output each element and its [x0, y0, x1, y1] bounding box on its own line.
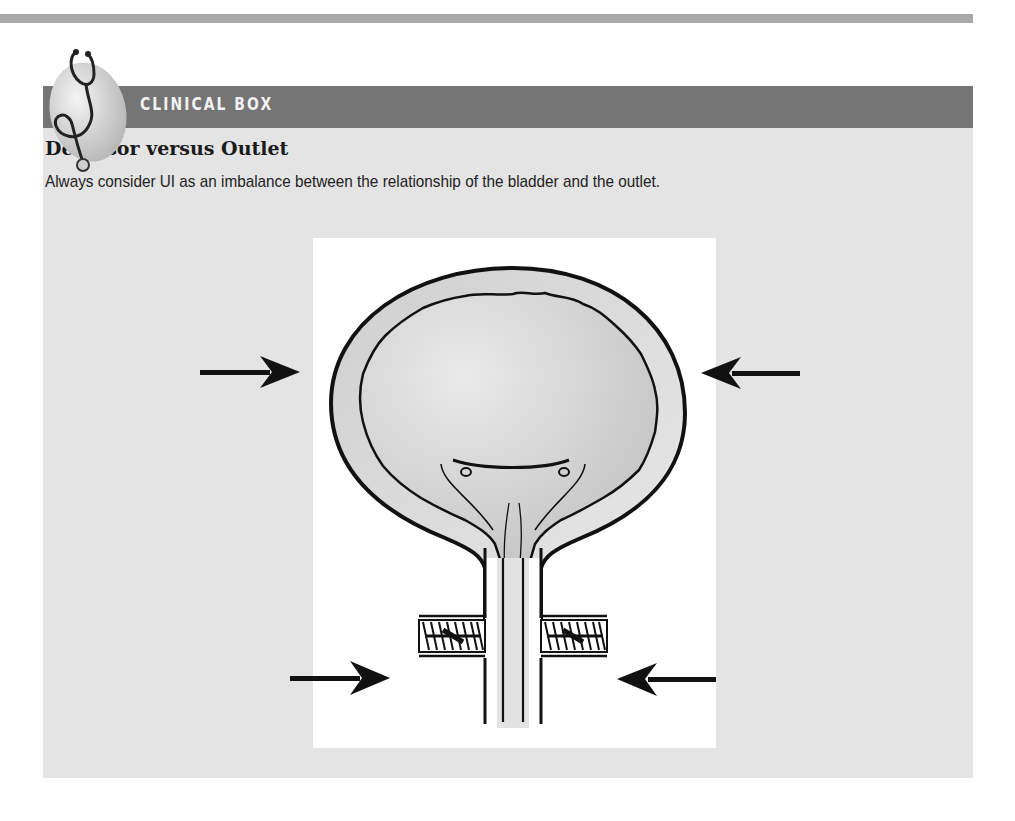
bladder-diagram: [313, 238, 716, 748]
clinical-box-label: CLINICAL BOX: [140, 94, 273, 114]
sphincter-right: [541, 616, 607, 656]
box-description: Always consider UI as an imbalance betwe…: [45, 172, 660, 192]
bladder-figure-panel: [313, 238, 716, 748]
stethoscope-icon: [28, 44, 148, 174]
sphincter-left: [419, 616, 485, 656]
clinical-box-body: Detrusor versus Outlet Always consider U…: [43, 128, 973, 778]
clinical-box: CLINICAL BOX Detrusor versus Outlet Alwa…: [43, 86, 973, 778]
clinical-box-header: CLINICAL BOX: [43, 86, 973, 128]
top-rule: [0, 14, 973, 23]
